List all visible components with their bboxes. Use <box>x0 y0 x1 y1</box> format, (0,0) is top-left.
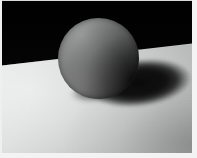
frame-margin-right <box>192 0 197 158</box>
frame-margin-top <box>0 0 197 1</box>
sphere-edge-darkening <box>58 18 139 99</box>
frame-margin-left <box>0 0 2 158</box>
picture-area <box>2 1 192 153</box>
photograph <box>0 0 197 158</box>
frame-margin-bottom <box>0 153 197 158</box>
